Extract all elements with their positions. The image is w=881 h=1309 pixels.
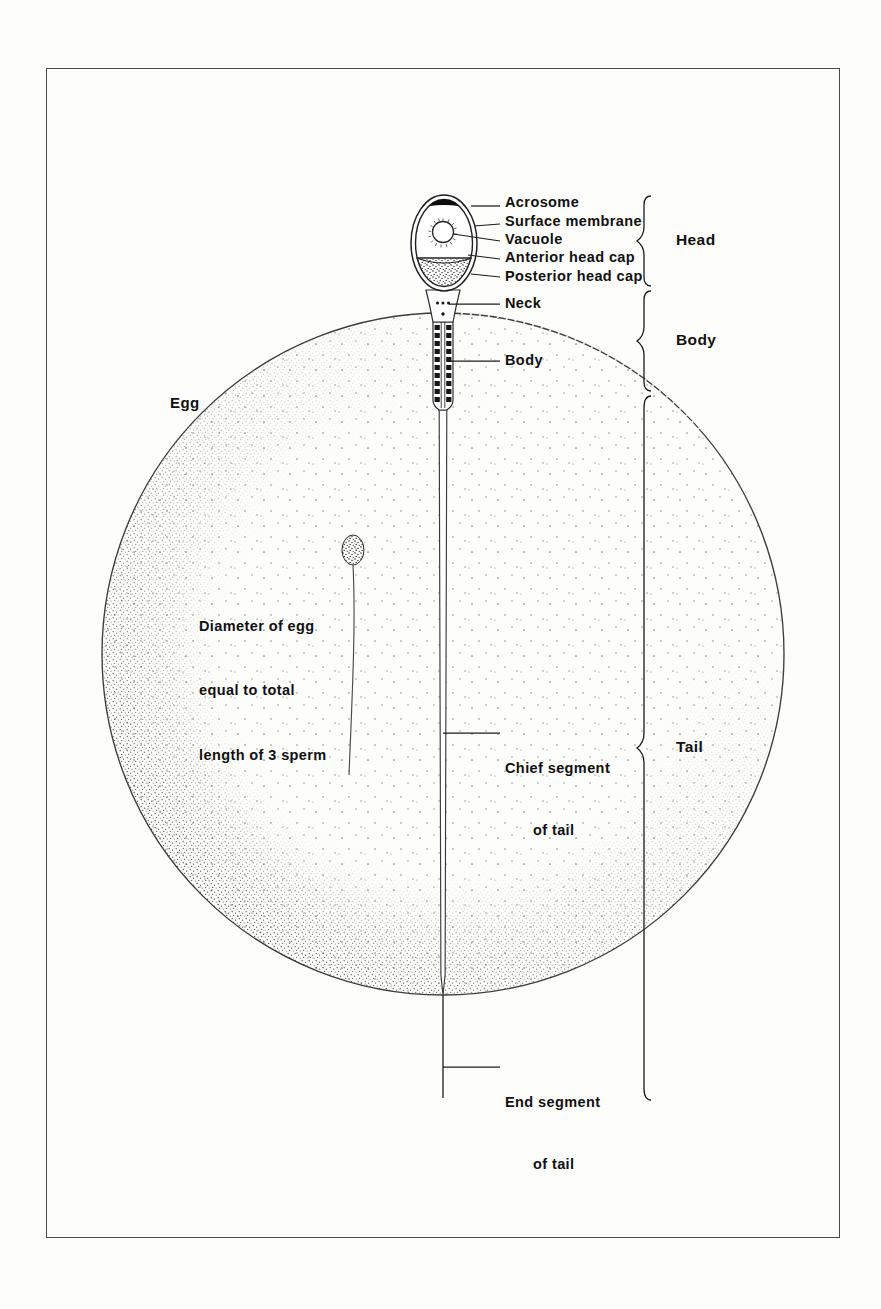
neck-granule-1 [436,302,439,305]
label-anterior-head-cap: Anterior head cap [505,250,635,265]
label-surface-membrane: Surface membrane [505,214,642,229]
scale-note-line1: Diameter of egg [199,616,327,637]
sperm-body-midpiece [433,322,453,410]
label-body: Body [505,353,543,368]
scale-note: Diameter of egg equal to total length of… [199,573,327,809]
label-posterior-head-cap: Posterior head cap [505,269,643,284]
scale-note-line3: length of 3 sperm [199,745,327,766]
group-label-body: Body [676,332,716,348]
figure-page: Acrosome Surface membrane Vacuole Anteri… [0,0,881,1309]
sperm-head [410,195,478,293]
label-neck: Neck [505,296,541,311]
label-chief-segment-line2: of tail [505,820,610,841]
label-end-segment-line2: of tail [505,1154,600,1175]
vacuole-circle [433,222,454,243]
reference-sperm-head [342,535,364,565]
label-chief-segment-line1: Chief segment [505,758,610,779]
leader-posterior-head-cap [471,274,500,277]
label-end-segment-line1: End segment [505,1092,600,1113]
neck-granule-2 [442,302,445,305]
label-chief-segment-of-tail: Chief segment of tail [505,717,610,882]
label-acrosome: Acrosome [505,195,579,210]
neck-granule-4 [441,312,444,315]
label-egg: Egg [170,395,200,411]
scale-note-line2: equal to total [199,680,327,701]
group-label-tail: Tail [676,739,703,755]
leader-surface-membrane [474,224,500,226]
diagram-artwork [0,0,881,1309]
label-vacuole: Vacuole [505,232,563,247]
label-end-segment-of-tail: End segment of tail [505,1051,600,1216]
chief-segment-of-tail [439,410,447,995]
group-label-head: Head [676,232,716,248]
